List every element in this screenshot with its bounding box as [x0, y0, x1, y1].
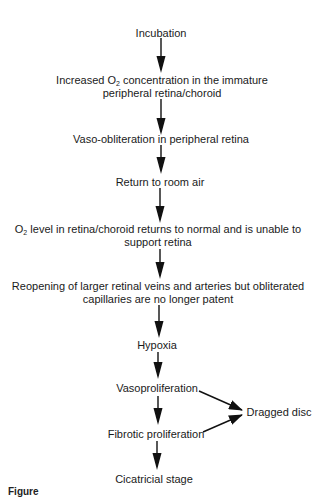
node-label-line-2: capillaries are no longer patent — [12, 293, 304, 306]
arrow-reopening-to-hypoxia — [155, 305, 164, 338]
node-vasoproliferation: Vasoproliferation — [116, 382, 198, 395]
node-fibrotic-proliferation: Fibrotic proliferation — [108, 428, 205, 441]
node-label-line-2: support retina — [15, 236, 301, 249]
node-label-line-1: O2 level in retina/choroid returns to no… — [15, 223, 301, 236]
arrow-increased-o2-to-vaso-obliteration — [157, 99, 166, 135]
node-incubation: Incubation — [136, 27, 187, 40]
node-reopening: Reopening of larger retinal veins and ar… — [12, 280, 304, 306]
node-label: Fibrotic proliferation — [108, 428, 205, 441]
arrow-hypoxia-to-vasoproliferation — [154, 352, 163, 379]
arrow-return-room-air-to-o2-level — [156, 188, 165, 223]
arrow-vasoproliferation-to-fibrotic — [154, 396, 163, 425]
node-cicatricial-stage: Cicatricial stage — [115, 473, 193, 486]
node-o2-level: O2 level in retina/choroid returns to no… — [15, 223, 301, 249]
node-label-line-1: Reopening of larger retinal veins and ar… — [12, 280, 304, 293]
arrow-vasoproliferation-to-dragged-disc — [199, 391, 242, 410]
node-increased-o2: Increased O2 concentration in the immatu… — [56, 74, 268, 100]
arrow-vaso-obliteration-to-return-room-air — [157, 145, 166, 174]
node-hypoxia: Hypoxia — [137, 339, 177, 352]
node-label: Vaso-obliteration in peripheral retina — [73, 133, 249, 146]
node-label-line-1: Increased O2 concentration in the immatu… — [56, 74, 268, 87]
node-label-line-2: peripheral retina/choroid — [56, 87, 268, 100]
node-label: Incubation — [136, 27, 187, 40]
node-label: Hypoxia — [137, 339, 177, 352]
node-label: Dragged disc — [247, 406, 312, 419]
node-label: Vasoproliferation — [116, 382, 198, 395]
arrow-fibrotic-to-cicatricial — [153, 441, 162, 470]
node-vaso-obliteration: Vaso-obliteration in peripheral retina — [73, 133, 249, 146]
arrow-o2-level-to-reopening — [156, 249, 165, 279]
node-label: Return to room air — [116, 176, 205, 189]
node-label: Cicatricial stage — [115, 473, 193, 486]
arrow-fibrotic-to-dragged-disc — [203, 415, 242, 432]
node-dragged-disc: Dragged disc — [247, 406, 312, 419]
arrow-incubation-to-increased-o2 — [157, 38, 166, 73]
node-return-room-air: Return to room air — [116, 176, 205, 189]
figure-caption: Figure — [8, 486, 39, 497]
